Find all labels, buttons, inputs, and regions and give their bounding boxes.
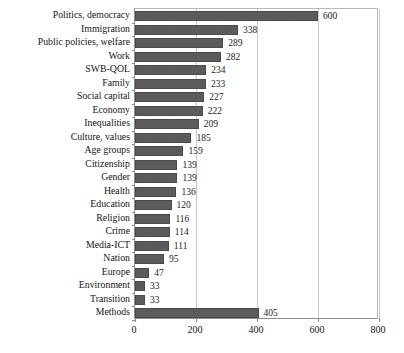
gridline bbox=[379, 9, 380, 318]
category-label: Religion bbox=[0, 212, 130, 224]
category-label: Economy bbox=[0, 104, 130, 116]
x-axis-tick-label: 0 bbox=[132, 324, 137, 336]
bar bbox=[135, 133, 191, 143]
bar-value-label: 338 bbox=[243, 24, 257, 36]
bar bbox=[135, 187, 176, 197]
bar-value-label: 120 bbox=[177, 199, 191, 211]
bar bbox=[135, 173, 177, 183]
bar-value-label: 185 bbox=[196, 132, 210, 144]
category-label: Gender bbox=[0, 171, 130, 183]
bar-value-label: 289 bbox=[228, 37, 242, 49]
plot-area: 6003382892822342332272222091851591391391… bbox=[134, 8, 378, 319]
category-label: Inequalities bbox=[0, 117, 130, 129]
x-axis-tick bbox=[135, 318, 136, 322]
bar-value-label: 139 bbox=[182, 159, 196, 171]
bar-value-label: 116 bbox=[175, 213, 189, 225]
bar bbox=[135, 200, 172, 210]
bar-value-label: 33 bbox=[150, 280, 160, 292]
category-axis-labels: Politics, democracyImmigrationPublic pol… bbox=[0, 8, 130, 319]
bar bbox=[135, 11, 318, 21]
category-label: Family bbox=[0, 77, 130, 89]
bar-value-label: 136 bbox=[181, 186, 195, 198]
bar bbox=[135, 295, 145, 305]
category-label: Methods bbox=[0, 306, 130, 318]
bar bbox=[135, 65, 206, 75]
bar-value-label: 282 bbox=[226, 51, 240, 63]
bar-value-label: 209 bbox=[204, 118, 218, 130]
category-label: Work bbox=[0, 50, 130, 62]
x-axis-tick bbox=[196, 318, 197, 322]
x-axis-tick-label: 800 bbox=[371, 324, 386, 336]
category-label: Age groups bbox=[0, 144, 130, 156]
bar bbox=[135, 227, 170, 237]
bar-value-label: 233 bbox=[211, 78, 225, 90]
category-label: Politics, democracy bbox=[0, 9, 130, 21]
category-label: SWB-QOL bbox=[0, 63, 130, 75]
bar-value-label: 114 bbox=[175, 226, 189, 238]
category-label: Health bbox=[0, 185, 130, 197]
bar bbox=[135, 79, 206, 89]
bar-value-label: 111 bbox=[174, 240, 188, 252]
x-axis-tick-label: 200 bbox=[188, 324, 203, 336]
category-label: Environment bbox=[0, 279, 130, 291]
bar bbox=[135, 281, 145, 291]
bar-rows: 6003382892822342332272222091851591391391… bbox=[135, 9, 377, 318]
category-label: Nation bbox=[0, 252, 130, 264]
bar-value-label: 234 bbox=[211, 64, 225, 76]
bar-value-label: 227 bbox=[209, 91, 223, 103]
category-label: Social capital bbox=[0, 90, 130, 102]
x-axis-tick bbox=[379, 318, 380, 322]
category-label: Citizenship bbox=[0, 158, 130, 170]
x-axis-tick bbox=[318, 318, 319, 322]
bar-value-label: 95 bbox=[169, 253, 179, 265]
bar bbox=[135, 241, 169, 251]
category-label: Europe bbox=[0, 266, 130, 278]
bar bbox=[135, 106, 203, 116]
x-axis-tick-label: 400 bbox=[249, 324, 264, 336]
bar-chart: Politics, democracyImmigrationPublic pol… bbox=[0, 0, 404, 353]
category-label: Media-ICT bbox=[0, 239, 130, 251]
bar bbox=[135, 268, 149, 278]
bar-value-label: 159 bbox=[188, 145, 202, 157]
x-axis-tick bbox=[257, 318, 258, 322]
bar bbox=[135, 52, 221, 62]
bar-value-label: 222 bbox=[208, 105, 222, 117]
bar bbox=[135, 214, 170, 224]
category-label: Transition bbox=[0, 293, 130, 305]
bar-value-label: 47 bbox=[154, 267, 164, 279]
bar bbox=[135, 308, 259, 318]
bar bbox=[135, 92, 204, 102]
category-label: Crime bbox=[0, 225, 130, 237]
bar bbox=[135, 25, 238, 35]
bar bbox=[135, 119, 199, 129]
bar bbox=[135, 38, 223, 48]
category-label: Public policies, welfare bbox=[0, 36, 130, 48]
bar-row: 405 bbox=[135, 306, 377, 321]
bar-value-label: 33 bbox=[150, 294, 160, 306]
bar-value-label: 405 bbox=[264, 307, 278, 319]
bar-value-label: 139 bbox=[182, 172, 196, 184]
x-axis-tick-label: 600 bbox=[310, 324, 325, 336]
category-label: Culture, values bbox=[0, 131, 130, 143]
bar bbox=[135, 254, 164, 264]
bar bbox=[135, 160, 177, 170]
bar bbox=[135, 146, 183, 156]
category-label: Immigration bbox=[0, 23, 130, 35]
bar-value-label: 600 bbox=[323, 10, 337, 22]
category-label: Education bbox=[0, 198, 130, 210]
